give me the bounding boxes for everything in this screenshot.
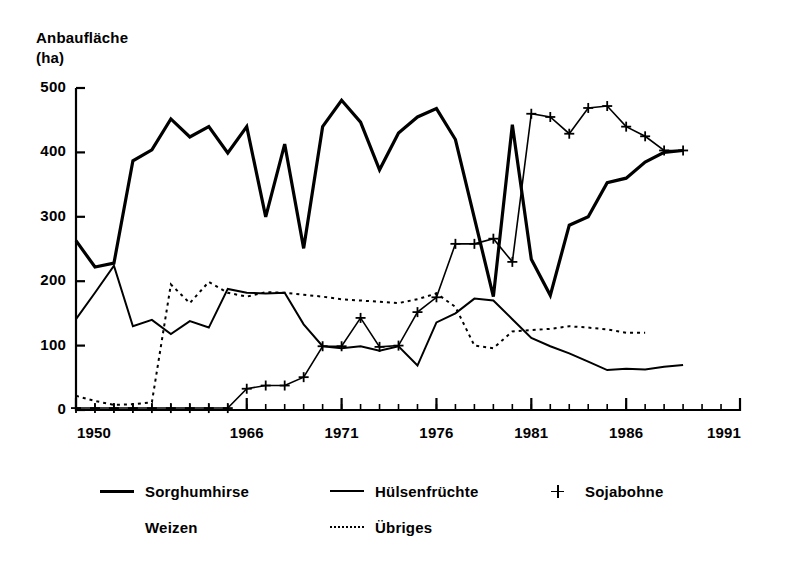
legend-item-h-lsenfr-chte[interactable]: Hülsenfrüchte	[330, 480, 478, 502]
legend-label: Übriges	[375, 519, 432, 536]
chart-legend: SorghumhirseHülsenfrüchteSojabohneWeizen…	[0, 470, 790, 560]
series-line	[76, 266, 683, 370]
series-line	[76, 282, 645, 405]
legend-line-sample-icon	[100, 484, 134, 498]
x-axis-tick-label: 1991	[694, 424, 754, 441]
x-axis-tick-label: 1950	[64, 424, 124, 441]
series-line	[76, 100, 683, 296]
legend-sample-blank	[100, 520, 134, 534]
plot-area	[0, 0, 790, 470]
legend-label: Weizen	[145, 519, 198, 536]
series-weizen	[76, 266, 683, 370]
series-sojabohne	[71, 101, 688, 413]
legend-item-sorghumhirse[interactable]: Sorghumhirse	[100, 480, 249, 502]
x-axis-tick-label: 1966	[217, 424, 277, 441]
legend-line-glyph	[330, 490, 364, 492]
x-axis-tick-label: 1971	[312, 424, 372, 441]
y-axis-tick-label: 400	[20, 142, 66, 159]
y-axis-tick-label: 100	[20, 336, 66, 353]
legend-plus-marker-icon	[540, 484, 574, 498]
x-axis-tick-label: 1986	[596, 424, 656, 441]
legend-label: Sorghumhirse	[145, 483, 249, 500]
legend-line-glyph	[100, 490, 134, 493]
chart-root: Anbaufläche (ha) 0100200300400500 195019…	[0, 0, 790, 570]
series--briges	[76, 282, 645, 405]
y-axis-tick-label: 300	[20, 207, 66, 224]
legend-line-sample-icon	[330, 484, 364, 498]
legend-line-sample-icon	[330, 520, 364, 534]
y-axis-tick-label: 200	[20, 271, 66, 288]
x-axis-tick-label: 1981	[501, 424, 561, 441]
series-sorghumhirse	[76, 100, 683, 296]
legend-label: Sojabohne	[585, 483, 663, 500]
y-axis-tick-label: 0	[20, 400, 66, 417]
legend-label: Hülsenfrüchte	[375, 483, 478, 500]
legend-item--briges[interactable]: Übriges	[330, 516, 432, 538]
plus-icon	[551, 485, 564, 498]
legend-line-glyph	[330, 526, 364, 528]
legend-item-weizen[interactable]: Weizen	[100, 516, 198, 538]
legend-item-sojabohne[interactable]: Sojabohne	[540, 480, 663, 502]
y-axis-tick-label: 500	[20, 78, 66, 95]
x-axis-tick-label: 1976	[406, 424, 466, 441]
